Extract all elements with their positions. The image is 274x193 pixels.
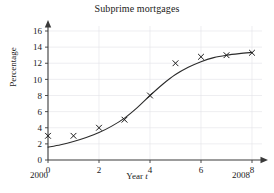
plot-area: 0246810121416 02468 (0, 0, 274, 193)
y-axis-ticks: 0246810121416 (33, 26, 48, 165)
y-tick-label: 8 (38, 91, 43, 101)
y-tick-label: 16 (33, 26, 43, 36)
x-axis-arrowhead (261, 157, 269, 163)
y-tick-label: 4 (38, 123, 43, 133)
vertical-gridlines (99, 26, 252, 160)
horizontal-gridlines (48, 31, 262, 144)
y-tick-label: 2 (38, 139, 43, 149)
y-tick-label: 10 (33, 75, 43, 85)
chart-figure: Subprime mortgages Percentage Year t 200… (0, 0, 274, 193)
y-tick-label: 6 (38, 107, 43, 117)
data-point-marker (71, 133, 76, 138)
y-tick-label: 14 (33, 42, 43, 52)
x-axis-ticks: 02468 (46, 160, 255, 175)
y-tick-label: 0 (38, 155, 43, 165)
y-tick-label: 12 (33, 58, 42, 68)
x-tick-label: 2 (97, 165, 102, 175)
x-tick-label: 6 (199, 165, 204, 175)
x-tick-label: 4 (148, 165, 153, 175)
y-axis-arrowhead (45, 20, 51, 28)
x-tick-label: 8 (250, 165, 255, 175)
x-tick-label: 0 (46, 165, 51, 175)
axes (45, 20, 268, 163)
